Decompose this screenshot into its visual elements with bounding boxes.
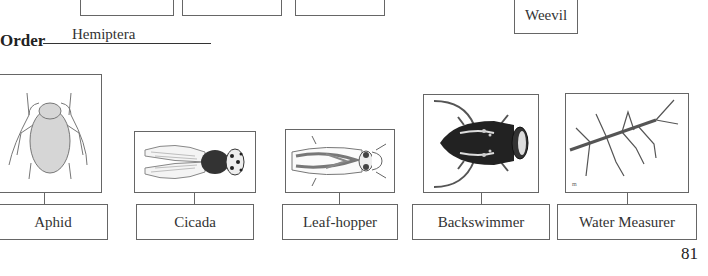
leafhopper-image-box xyxy=(285,129,395,193)
cicada-label: Cicada xyxy=(174,214,216,231)
backswimmer-label: Backswimmer xyxy=(438,214,525,231)
aphid-label: Aphid xyxy=(34,214,72,231)
cicada-label-box: Cicada xyxy=(136,204,254,240)
backswimmer-image-box xyxy=(423,94,539,193)
water-measurer-illustration-icon: m xyxy=(566,94,688,192)
aphid-connector xyxy=(44,193,45,204)
order-answer-value: Hemiptera xyxy=(72,26,135,43)
svg-text:m: m xyxy=(572,181,577,187)
aphid-label-box: Aphid xyxy=(0,204,108,240)
leafhopper-connector xyxy=(339,193,340,204)
leafhopper-label: Leaf-hopper xyxy=(303,214,377,231)
leafhopper-illustration-icon xyxy=(286,130,394,192)
top-empty-box-3 xyxy=(295,0,385,16)
top-empty-box-2 xyxy=(182,0,282,16)
backswimmer-connector xyxy=(481,193,482,204)
weevil-label-box: Weevil xyxy=(514,0,578,34)
leafhopper-label-box: Leaf-hopper xyxy=(282,204,398,240)
backswimmer-illustration-icon xyxy=(424,95,538,192)
backswimmer-label-box: Backswimmer xyxy=(412,204,550,240)
order-answer-line xyxy=(43,43,211,44)
page-number: 81 xyxy=(681,244,698,264)
aphid-image-box xyxy=(0,74,102,193)
water-measurer-connector xyxy=(627,193,628,204)
cicada-illustration-icon xyxy=(135,132,255,192)
water-measurer-label: Water Measurer xyxy=(579,214,675,231)
water-measurer-label-box: Water Measurer xyxy=(557,204,697,240)
aphid-illustration-icon xyxy=(0,75,101,192)
cicada-image-box xyxy=(134,131,256,193)
top-empty-box-1 xyxy=(80,0,174,16)
order-heading: Order xyxy=(0,31,45,51)
water-measurer-image-box: m xyxy=(565,93,689,193)
cicada-connector xyxy=(194,193,195,204)
weevil-label: Weevil xyxy=(525,7,567,24)
